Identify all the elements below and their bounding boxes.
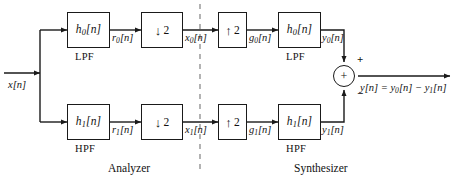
synthesizer-upsampler-bottom-factor: 2 xyxy=(234,116,240,128)
analyzer-downsampler-top[interactable]: ↓ 2 xyxy=(141,12,183,48)
analyzer-downsampler-bottom-factor: 2 xyxy=(163,116,169,128)
synthesizer-hpf-block[interactable]: h1[n] xyxy=(278,104,321,140)
analyzer-hpf-type-label: HPF xyxy=(75,144,95,155)
synthesizer-lpf-block[interactable]: h0[n] xyxy=(278,12,321,48)
summer-positive-sign: + xyxy=(357,54,363,65)
synthesizer-y1-label: y1[n] xyxy=(322,125,344,137)
synthesizer-upsampler-top[interactable]: ↑ 2 xyxy=(218,12,247,48)
synthesizer-hpf-type-label: HPF xyxy=(286,144,306,155)
analyzer-lpf-type-label: LPF xyxy=(75,52,94,63)
analyzer-r0-label: r0[n] xyxy=(112,33,133,45)
down-arrow-icon: ↓ xyxy=(155,115,162,128)
analyzer-x1-label: x1[n] xyxy=(185,125,207,137)
filter-bank-diagram: h0[n] LPF r0[n] ↓ 2 x0[n] h1[n] HPF r1[n… xyxy=(0,0,454,186)
analyzer-section-label: Analyzer xyxy=(108,163,150,175)
synthesizer-hpf-label: h1[n] xyxy=(287,115,313,129)
analyzer-r1-label: r1[n] xyxy=(112,125,133,137)
synthesizer-g0-label: g0[n] xyxy=(249,33,271,45)
analyzer-hpf-label: h1[n] xyxy=(76,115,102,129)
analyzer-downsampler-bottom[interactable]: ↓ 2 xyxy=(141,104,183,140)
analyzer-downsampler-top-factor: 2 xyxy=(163,24,169,36)
synthesizer-lpf-type-label: LPF xyxy=(286,52,305,63)
up-arrow-icon: ↑ xyxy=(225,115,232,128)
down-arrow-icon: ↓ xyxy=(155,23,162,36)
synthesizer-upsampler-top-factor: 2 xyxy=(234,24,240,36)
synthesizer-section-label: Synthesizer xyxy=(294,163,348,175)
analyzer-x0-label: x0[n] xyxy=(185,33,207,45)
wire-y1-to-summer xyxy=(321,90,344,122)
input-signal-label: x[n] xyxy=(8,80,26,91)
synthesizer-g1-label: g1[n] xyxy=(249,125,271,137)
summing-junction-symbol: + xyxy=(341,70,348,82)
analyzer-hpf-block[interactable]: h1[n] xyxy=(67,104,110,140)
synthesizer-y0-label: y0[n] xyxy=(322,33,344,45)
analyzer-lpf-label: h0[n] xyxy=(76,23,102,37)
analyzer-lpf-block[interactable]: h0[n] xyxy=(67,12,110,48)
synthesizer-lpf-label: h0[n] xyxy=(287,23,313,37)
synthesizer-upsampler-bottom[interactable]: ↑ 2 xyxy=(218,104,247,140)
up-arrow-icon: ↑ xyxy=(225,23,232,36)
output-signal-label: y[n] = y0[n] − y1[n] xyxy=(360,83,447,95)
summing-junction[interactable]: + xyxy=(333,65,355,87)
